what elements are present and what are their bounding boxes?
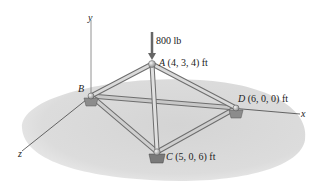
joint-c-label: C (5, 0, 6) ft <box>166 152 215 162</box>
y-axis-label: y <box>88 13 92 23</box>
joint-a-label: A (4, 3, 4) ft <box>159 58 208 68</box>
load-label: 800 lb <box>156 36 181 46</box>
joint-d-label: D (6, 0, 0) ft <box>238 94 288 104</box>
joint-a <box>149 61 156 68</box>
truss-diagram: y z x 800 lb A (4, 3, 4) ft B D (6, 0, 0… <box>0 0 325 187</box>
joint-b-label: B <box>78 84 84 94</box>
load-arrow-icon <box>148 32 156 60</box>
x-axis-label: x <box>301 109 305 119</box>
z-axis-label: z <box>18 149 22 159</box>
